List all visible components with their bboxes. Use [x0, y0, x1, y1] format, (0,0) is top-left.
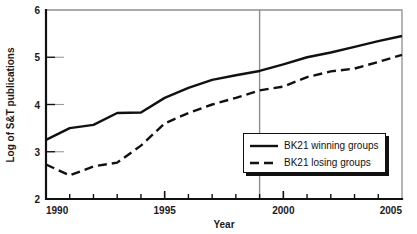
x-tick-label: 1990: [46, 205, 69, 216]
y-tick-label: 6: [34, 5, 40, 16]
x-axis-title: Year: [213, 219, 234, 230]
y-tick-label: 3: [34, 147, 40, 158]
y-axis-tick-labels: 23456: [34, 5, 40, 205]
x-tick-label: 2000: [272, 205, 295, 216]
legend-swatch-dashed-icon: [249, 158, 279, 168]
chart-legend: BK21 winning groups BK21 losing groups: [243, 133, 386, 173]
legend-label-winning: BK21 winning groups: [284, 140, 379, 151]
series-line-solid: [46, 36, 402, 140]
y-tick-label: 2: [34, 194, 40, 205]
y-tick-label: 4: [34, 100, 40, 111]
legend-item-losing: BK21 losing groups: [249, 154, 380, 171]
legend-label-losing: BK21 losing groups: [284, 157, 371, 168]
y-axis-title: Log of S&T publications: [5, 47, 16, 162]
chart-figure: 23456 1990199520002005 Log of S&T public…: [0, 0, 417, 234]
legend-item-winning: BK21 winning groups: [249, 137, 380, 154]
x-tick-label: 2005: [380, 205, 403, 216]
x-axis-ticks: [70, 191, 379, 199]
y-tick-label: 5: [34, 52, 40, 63]
x-axis-tick-labels: 1990199520002005: [46, 205, 402, 216]
legend-swatch-solid-icon: [249, 141, 279, 151]
line-chart-plot: 23456 1990199520002005 Log of S&T public…: [0, 0, 417, 234]
x-tick-label: 1995: [154, 205, 177, 216]
